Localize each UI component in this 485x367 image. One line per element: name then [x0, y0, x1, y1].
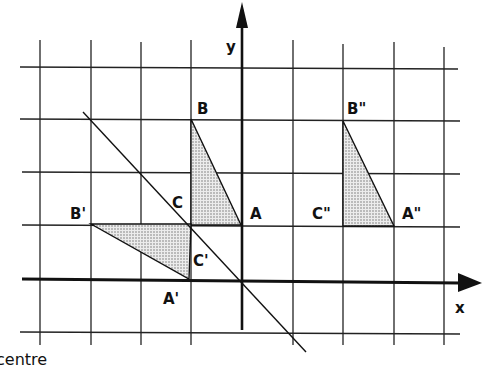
caption-fragment: centre	[0, 350, 47, 367]
label-b: B	[197, 100, 208, 118]
axis-label-y: y	[226, 38, 236, 56]
label-b-double-prime: B"	[347, 100, 366, 118]
label-a-double-prime: A"	[402, 205, 421, 223]
label-c-prime: C'	[193, 252, 209, 270]
label-a-prime: A'	[163, 290, 179, 308]
axis-label-x: x	[455, 299, 465, 317]
label-c-double-prime: C"	[312, 205, 331, 223]
label-a: A	[250, 205, 262, 223]
coordinate-diagram: y x B C A B' C' A' B" C" A"	[0, 0, 485, 367]
grid	[20, 40, 460, 345]
label-b-prime: B'	[70, 205, 86, 223]
x-axis-arrow-icon	[458, 273, 482, 292]
y-axis-arrow-icon	[236, 2, 248, 28]
label-c: C	[172, 194, 183, 212]
triangle-abc	[191, 119, 241, 225]
